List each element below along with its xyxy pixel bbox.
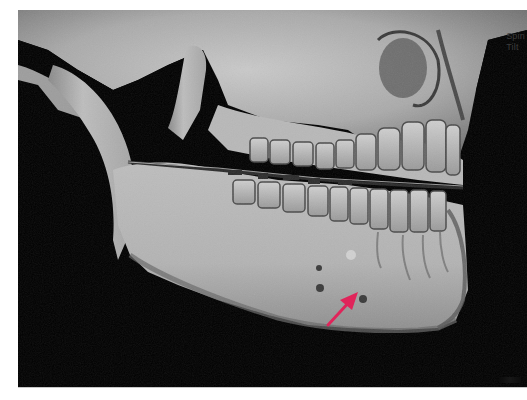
skull-volume-rendering — [18, 10, 527, 387]
tilt-label[interactable]: Tilt — [506, 42, 518, 52]
ct-3d-viewport[interactable]: Spin Tilt — [18, 10, 527, 387]
figure-page: Spin Tilt — [0, 0, 527, 400]
corner-watermark — [499, 377, 521, 383]
view-controls: Spin Tilt — [506, 31, 525, 52]
spin-label[interactable]: Spin — [506, 31, 525, 41]
frame-bottom-edge — [18, 387, 527, 388]
